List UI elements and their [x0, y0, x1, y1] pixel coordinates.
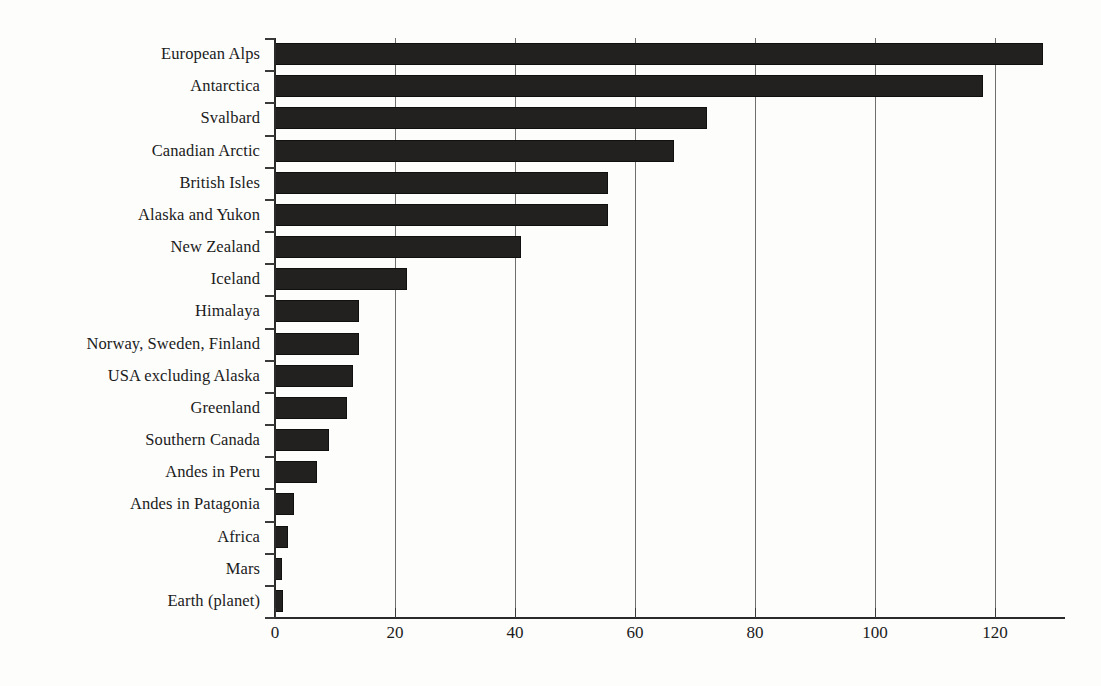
y-axis-tick — [265, 199, 275, 201]
x-axis-tick-label: 60 — [605, 624, 665, 641]
category-label: Africa — [0, 529, 260, 546]
y-axis-tick — [265, 553, 275, 555]
bar — [275, 397, 347, 419]
y-axis-tick — [265, 135, 275, 137]
y-axis-tick — [265, 488, 275, 490]
bar — [275, 140, 674, 162]
bar — [275, 558, 282, 580]
bar — [275, 461, 317, 483]
x-axis-tick — [875, 608, 876, 618]
category-label: Norway, Sweden, Finland — [0, 336, 260, 353]
y-axis-tick — [265, 263, 275, 265]
x-axis-tick-label: 40 — [485, 624, 545, 641]
category-label: New Zealand — [0, 239, 260, 256]
bar-chart: European AlpsAntarcticaSvalbardCanadian … — [0, 0, 1101, 686]
bar — [275, 493, 294, 515]
x-axis-tick-label: 20 — [365, 624, 425, 641]
bar — [275, 204, 608, 226]
bar — [275, 43, 1043, 65]
category-label: Alaska and Yukon — [0, 207, 260, 224]
category-label: Andes in Peru — [0, 464, 260, 481]
gridline-x-80 — [755, 38, 756, 617]
y-axis-tick — [265, 617, 275, 619]
x-axis-tick — [515, 608, 516, 618]
x-axis-tick-label: 100 — [845, 624, 905, 641]
x-axis-tick — [395, 608, 396, 618]
x-axis-tick-label: 0 — [245, 624, 305, 641]
bar — [275, 300, 359, 322]
gridline-x-100 — [875, 38, 876, 617]
bar — [275, 526, 288, 548]
category-label: Mars — [0, 561, 260, 578]
x-axis-tick — [755, 608, 756, 618]
category-label: Himalaya — [0, 303, 260, 320]
category-label: Andes in Patagonia — [0, 496, 260, 513]
y-axis-tick — [265, 70, 275, 72]
bar — [275, 333, 359, 355]
x-axis-spine — [274, 617, 1065, 619]
category-label: British Isles — [0, 175, 260, 192]
x-axis-tick-label: 80 — [725, 624, 785, 641]
bar — [275, 236, 521, 258]
x-axis-tick — [995, 608, 996, 618]
category-label: Earth (planet) — [0, 593, 260, 610]
category-label: Canadian Arctic — [0, 143, 260, 160]
bar — [275, 590, 283, 612]
category-label: Svalbard — [0, 110, 260, 127]
y-axis-tick — [265, 231, 275, 233]
x-axis-tick-label: 120 — [965, 624, 1025, 641]
y-axis-tick — [265, 392, 275, 394]
y-axis-tick — [265, 585, 275, 587]
category-label: European Alps — [0, 46, 260, 63]
y-axis-tick — [265, 102, 275, 104]
category-label: Antarctica — [0, 78, 260, 95]
bar — [275, 365, 353, 387]
y-axis-tick — [265, 521, 275, 523]
x-axis-tick — [275, 608, 276, 618]
y-axis-tick — [265, 38, 275, 40]
y-axis-tick — [265, 167, 275, 169]
bar — [275, 107, 707, 129]
y-axis-tick — [265, 424, 275, 426]
category-label: Greenland — [0, 400, 260, 417]
x-axis-tick — [635, 608, 636, 618]
bar — [275, 268, 407, 290]
y-axis-tick — [265, 295, 275, 297]
category-label: Southern Canada — [0, 432, 260, 449]
category-label: Iceland — [0, 271, 260, 288]
category-axis: European AlpsAntarcticaSvalbardCanadian … — [0, 38, 268, 617]
y-axis-tick — [265, 328, 275, 330]
gridline-x-120 — [995, 38, 996, 617]
bar — [275, 172, 608, 194]
bar — [275, 429, 329, 451]
category-label: USA excluding Alaska — [0, 368, 260, 385]
y-axis-tick — [265, 360, 275, 362]
y-axis-tick — [265, 456, 275, 458]
bar — [275, 75, 983, 97]
plot-area — [275, 38, 1065, 617]
